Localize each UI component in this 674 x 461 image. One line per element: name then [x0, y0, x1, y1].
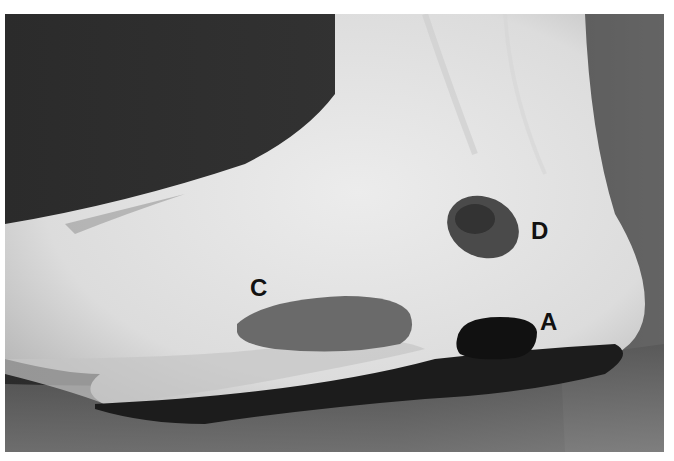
mark-a: [456, 317, 537, 359]
label-d: D: [531, 219, 548, 243]
foot-photograph: [5, 14, 664, 452]
figure: D C A: [0, 0, 674, 461]
label-c: C: [250, 276, 267, 300]
label-a: A: [540, 310, 557, 334]
